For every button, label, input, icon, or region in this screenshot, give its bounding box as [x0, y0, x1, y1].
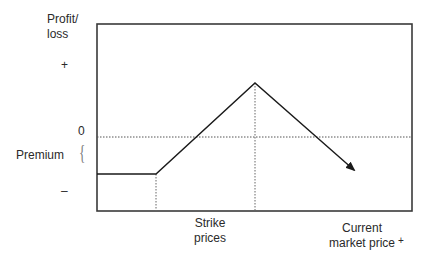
- strike-prices-label: Strike prices: [190, 216, 230, 246]
- premium-label: Premium: [16, 148, 64, 163]
- zero-marker: 0: [78, 124, 85, 139]
- plus-marker: +: [61, 58, 68, 73]
- y-axis-label: Profit/ loss: [47, 12, 78, 42]
- premium-brace: {: [79, 139, 85, 165]
- payoff-line: [97, 83, 354, 174]
- x-plus-marker: +: [398, 233, 404, 248]
- x-axis-label: Current market price: [322, 221, 402, 251]
- minus-marker: –: [61, 184, 68, 199]
